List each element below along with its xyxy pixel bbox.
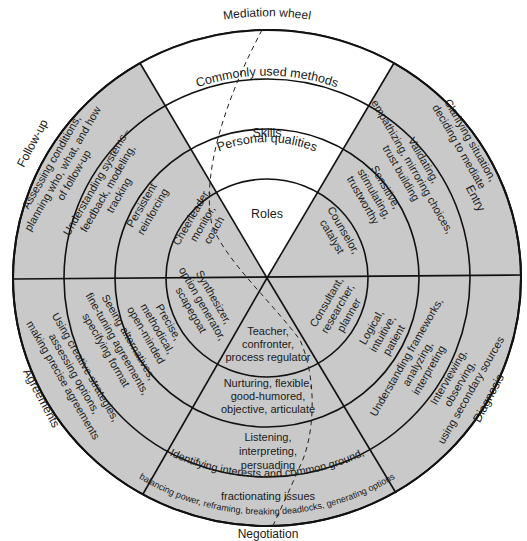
svg-text:Listening,: Listening, [244,431,291,443]
svg-text:process regulator: process regulator [226,351,311,363]
svg-text:objective, articulate: objective, articulate [221,403,315,415]
svg-text:Nurturing, flexible,: Nurturing, flexible, [224,377,313,389]
negotiation-qualities: Nurturing, flexible, good-humored, objec… [221,377,315,415]
ring-label-roles: Roles [251,207,283,221]
wheel-title: Mediation wheel [222,5,312,22]
stage-label-negotiation: Negotiation [238,527,299,541]
negotiation-skills: Listening, interpreting, persuading [239,431,297,471]
mediation-wheel-diagram: Mediation wheel Commonly used methods Sk… [0,0,527,541]
svg-text:confronter,: confronter, [242,338,294,350]
svg-text:interpreting,: interpreting, [239,445,297,457]
negotiation-methods-line2: fractionating issues [221,490,316,502]
svg-text:good-humored,: good-humored, [231,390,306,402]
svg-text:Teacher,: Teacher, [247,325,289,337]
